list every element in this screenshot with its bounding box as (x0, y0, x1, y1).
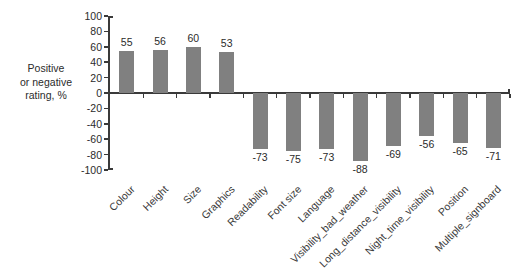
x-axis-tick (409, 94, 411, 98)
bar (486, 93, 501, 148)
bar-value-label: 55 (121, 37, 133, 48)
bar-value-label: -71 (486, 151, 501, 162)
bar-value-label: 56 (154, 36, 166, 47)
x-axis-tick (443, 94, 445, 98)
x-axis-tick (309, 94, 311, 98)
y-axis-tick (104, 77, 108, 79)
x-axis-tick (176, 94, 178, 98)
y-axis-tick-label: -60 (87, 134, 102, 145)
bar (119, 51, 134, 93)
bar (286, 93, 301, 151)
bar-value-label: -69 (386, 149, 401, 160)
bar-chart: Positive or negative rating, % 100806040… (0, 0, 526, 271)
bar (386, 93, 401, 146)
y-axis-tick-label: 80 (90, 26, 102, 37)
bar-value-label: 60 (187, 33, 199, 44)
bar (253, 93, 268, 149)
x-axis-tick (276, 94, 278, 98)
y-axis-tick (104, 15, 108, 17)
y-axis-tick (104, 108, 108, 110)
bar (186, 47, 201, 93)
y-axis-top-cap (108, 16, 113, 18)
bar-value-label: -88 (352, 164, 367, 175)
y-axis-tick-label: 20 (90, 72, 102, 83)
x-axis-tick (476, 94, 478, 98)
y-axis-tick-label: 60 (90, 42, 102, 53)
y-axis-title-line-3: rating, % (8, 89, 84, 103)
bar-value-label: -65 (452, 146, 467, 157)
bar-value-label: -73 (319, 152, 334, 163)
y-axis-tick-label: -80 (87, 149, 102, 160)
x-axis-tick (243, 94, 245, 98)
x-axis-category-label: Height (141, 184, 170, 213)
bar-value-label: 53 (221, 38, 233, 49)
bar (319, 93, 334, 149)
y-axis-title: Positive or negative rating, % (8, 62, 84, 103)
y-axis-tick (104, 31, 108, 33)
bar (153, 50, 168, 93)
bar (219, 52, 234, 93)
x-axis-tick (209, 94, 211, 98)
x-axis-tick (509, 94, 511, 98)
y-axis-tick-label: 0 (96, 88, 102, 99)
x-axis-tick (343, 94, 345, 98)
y-axis-tick (104, 154, 108, 156)
x-axis-category-label: Colour (107, 184, 137, 214)
y-axis-tick-label: -20 (87, 103, 102, 114)
y-axis-title-line-1: Positive (8, 62, 84, 76)
x-axis-category-label: Multiple_signboard (433, 184, 503, 254)
bar (353, 93, 368, 161)
bar-value-label: -73 (252, 152, 267, 163)
bar-value-label: -75 (286, 154, 301, 165)
y-axis-tick (104, 61, 108, 63)
y-axis-tick-label: 100 (84, 11, 102, 22)
bar (419, 93, 434, 136)
y-axis-tick-label: -40 (87, 119, 102, 130)
plot-area: 100806040200-20-40-60-80-10055Colour56He… (108, 16, 518, 170)
y-axis-tick (104, 138, 108, 140)
bar-value-label: -56 (419, 139, 434, 150)
y-axis-tick (104, 46, 108, 48)
x-axis-category-label: Size (181, 184, 203, 206)
y-axis-tick-label: 40 (90, 57, 102, 68)
x-axis-tick (376, 94, 378, 98)
x-axis-tick (143, 94, 145, 98)
y-axis-tick-label: -100 (81, 165, 102, 176)
bar (453, 93, 468, 143)
y-axis-title-line-2: or negative (8, 76, 84, 90)
y-axis-tick (104, 169, 108, 171)
y-axis-tick (104, 123, 108, 125)
x-axis-category-label: Night_time_visibility (364, 184, 437, 257)
y-axis-bottom-cap (108, 168, 113, 170)
